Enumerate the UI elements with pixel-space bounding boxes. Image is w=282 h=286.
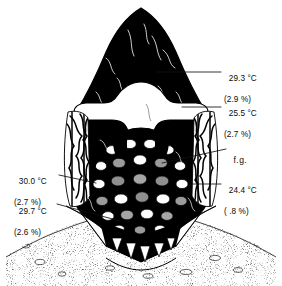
annotation-lower-right: 24.4 °C ( .8 %) xyxy=(224,176,257,227)
annotation-upper-right: 25.5 °C (2.7 %) xyxy=(224,99,257,150)
annotation-temperature: 29.3 °C xyxy=(229,74,257,83)
annotation-temperature: 24.4 °C xyxy=(229,186,257,195)
annotation-percent: (2.7 %) xyxy=(224,130,257,140)
annotation-fg: f.g. xyxy=(228,145,247,165)
annotation-percent: ( .8 %) xyxy=(224,207,257,217)
annotation-label-fg: f.g. xyxy=(234,155,248,165)
annotation-temperature: 29.7 °C xyxy=(19,207,47,216)
gill-filaments-left xyxy=(64,111,90,206)
gill-filaments-right xyxy=(192,111,218,206)
egg-mass xyxy=(92,128,191,236)
annotation-temperature: 30.0 °C xyxy=(19,177,47,186)
annotation-percent: (2.6 %) xyxy=(14,228,47,238)
annotation-temperature: 25.5 °C xyxy=(229,109,257,118)
annotation-lower-left: 29.7 °C (2.6 %) xyxy=(14,197,47,248)
